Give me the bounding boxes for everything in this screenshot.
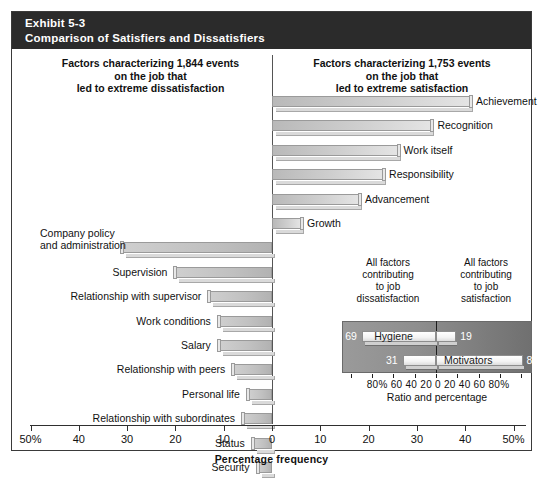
- bar-row: Recognition: [12, 120, 531, 134]
- bar-responsibility: [272, 169, 383, 180]
- bar-achievement: [272, 96, 470, 107]
- x-axis-tick: [224, 425, 225, 431]
- x-axis-tick: [369, 425, 370, 431]
- x-axis-tick: [465, 425, 466, 431]
- x-axis-tick: [417, 425, 418, 431]
- bar-label: Supervision: [113, 266, 168, 279]
- left-column-heading: Factors characterizing 1,844 events on t…: [30, 57, 271, 95]
- bar-work-conditions: [219, 316, 272, 327]
- inset-axis-tick: [500, 374, 501, 378]
- inset-axis-tick: [521, 374, 522, 378]
- inset-axis-tick: [479, 374, 480, 378]
- x-axis-tick-label: 40: [445, 433, 485, 445]
- bar-end-cap: [231, 363, 235, 376]
- x-axis-title: Percentage frequency: [12, 453, 531, 465]
- x-axis-tick: [127, 425, 128, 431]
- bar-recognition: [272, 120, 431, 131]
- bar-relationship-with-subordinates: [243, 413, 272, 424]
- inset-category-label: Motivators: [444, 354, 492, 366]
- x-axis-tick: [175, 425, 176, 431]
- x-axis-tick: [514, 425, 515, 431]
- right-heading-line-1: Factors characterizing 1,753 events: [278, 57, 526, 70]
- inset-axis-tick: [415, 374, 416, 378]
- x-axis-tick: [272, 425, 273, 431]
- x-axis-tick-label: 40: [59, 433, 99, 445]
- bar-row: Work itself: [12, 145, 531, 159]
- right-heading-line-2: on the job that: [278, 70, 526, 83]
- inset-axis-tick: [351, 374, 352, 378]
- bar-salary: [219, 340, 272, 351]
- bar-end-cap: [217, 339, 221, 352]
- bar-end-cap: [358, 193, 362, 206]
- bar-row: Responsibility: [12, 169, 531, 183]
- inset-category-label: Hygiene: [374, 330, 413, 342]
- bar-end-cap: [246, 388, 250, 401]
- inset-axis-tick: [436, 374, 437, 378]
- x-axis-tick-label: 10: [300, 433, 340, 445]
- inset-left-line-3: to job: [344, 281, 432, 293]
- bar-end-cap: [173, 266, 177, 279]
- x-axis-tick-label: 20: [349, 433, 389, 445]
- x-axis-tick-label: 50%: [494, 433, 534, 445]
- x-axis-tick-label: 50%: [11, 433, 51, 445]
- x-axis-line: [30, 425, 526, 426]
- bar-growth: [272, 218, 301, 229]
- bar-end-cap: [217, 315, 221, 328]
- right-heading-line-3: led to extreme satisfaction: [278, 82, 526, 95]
- bar-personal-life: [248, 389, 272, 400]
- inset-value-left: 69: [345, 330, 357, 342]
- left-heading-line-3: led to extreme dissatisfaction: [30, 82, 271, 95]
- bar-label: Salary: [181, 339, 211, 352]
- inset-left-line-4: dissatisfaction: [344, 293, 432, 305]
- inset-axis-tick-labels: 80% 60 40 20 0 20 40 60 80%: [338, 379, 538, 390]
- bar-label: Achievement: [476, 95, 537, 108]
- bar-work-itself: [272, 145, 398, 156]
- inset-left-line-2: contributing: [344, 269, 432, 281]
- bar-label: Work itself: [404, 144, 453, 157]
- bar-end-cap: [241, 412, 245, 425]
- bar-label: Advancement: [365, 193, 429, 206]
- bar-label: Personal life: [182, 388, 240, 401]
- inset-axis-title: Ratio and percentage: [342, 391, 532, 403]
- x-axis-tick-label: 30: [107, 433, 147, 445]
- bar-label: Company policy and administration: [40, 228, 126, 251]
- inset-axis-tick: [372, 374, 373, 378]
- bar-relationship-with-supervisor: [209, 291, 272, 302]
- inset-bar-hygiene-right: [436, 331, 456, 342]
- left-heading-line-1: Factors characterizing 1,844 events: [30, 57, 271, 70]
- bar-label: Growth: [307, 217, 341, 230]
- exhibit-title-band: Exhibit 5-3 Comparison of Satisfiers and…: [12, 12, 531, 49]
- bar-row: Achievement: [12, 96, 531, 110]
- bar-label: Work conditions: [136, 315, 211, 328]
- inset-right-line-2: contributing: [442, 269, 530, 281]
- bar-label: Relationship with subordinates: [93, 412, 235, 425]
- bar-end-cap: [469, 95, 473, 108]
- bar-end-cap: [397, 144, 401, 157]
- inset-right-line-3: to job: [442, 281, 530, 293]
- left-heading-line-2: on the job that: [30, 70, 271, 83]
- inset-ratio-chart: All factors contributing to job dissatis…: [342, 257, 538, 405]
- bar-end-cap: [430, 119, 434, 132]
- x-axis-tick-label: 30: [397, 433, 437, 445]
- bar-supervision: [175, 267, 272, 278]
- right-column-heading: Factors characterizing 1,753 events on t…: [278, 57, 526, 95]
- inset-axis-tick: [457, 374, 458, 378]
- bar-company-policy-and-administration: [122, 242, 272, 253]
- x-axis-tick: [320, 425, 321, 431]
- exhibit-number: Exhibit 5-3: [25, 16, 531, 31]
- inset-value-left: 31: [386, 354, 398, 366]
- inset-left-line-1: All factors: [344, 257, 432, 269]
- exhibit-frame: Exhibit 5-3 Comparison of Satisfiers and…: [11, 11, 532, 451]
- x-axis-tick: [31, 425, 32, 431]
- x-axis-tick-label: 10: [204, 433, 244, 445]
- bar-relationship-with-peers: [233, 364, 272, 375]
- inset-value-right: 19: [460, 330, 472, 342]
- bar-label: Relationship with peers: [117, 363, 226, 376]
- bar-advancement: [272, 194, 359, 205]
- inset-axis-tick: [393, 374, 394, 378]
- bar-label: Relationship with supervisor: [70, 290, 201, 303]
- inset-heading-right: All factors contributing to job satisfac…: [442, 257, 530, 305]
- inset-right-line-1: All factors: [442, 257, 530, 269]
- bar-end-cap: [382, 168, 386, 181]
- inset-bar-motivators-left: [403, 355, 436, 366]
